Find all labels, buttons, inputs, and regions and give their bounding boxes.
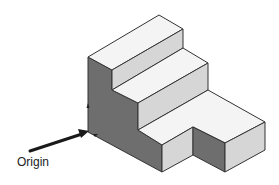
origin-label: Origin: [17, 155, 49, 169]
origin-arrow: [30, 129, 89, 151]
